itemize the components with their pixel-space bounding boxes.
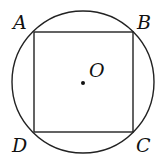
center-label-o: O bbox=[89, 59, 105, 81]
vertex-label-a: A bbox=[11, 11, 27, 33]
vertex-label-b: B bbox=[136, 11, 151, 33]
center-point-o bbox=[81, 81, 85, 85]
geometry-diagram: A B C D O bbox=[0, 0, 160, 159]
vertex-label-d: D bbox=[11, 134, 27, 156]
vertex-label-c: C bbox=[136, 134, 151, 156]
